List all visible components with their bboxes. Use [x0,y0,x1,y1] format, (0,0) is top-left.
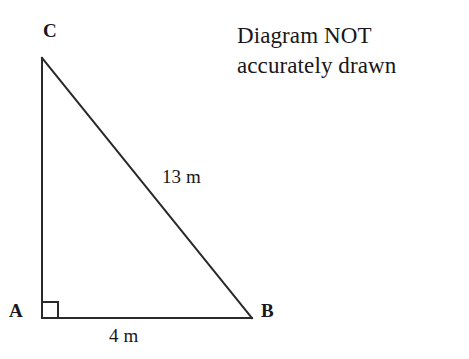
right-angle-marker-icon [42,302,58,318]
note-line-2: accurately drawn [237,51,396,81]
vertex-label-c: C [43,21,57,40]
diagram-canvas: C A B 13 m 4 m Diagram NOT accurately dr… [0,0,469,359]
side-cb-hypotenuse-line [42,58,252,318]
base-length-label: 4 m [109,326,138,345]
triangle-figure [0,0,469,359]
note-line-1: Diagram NOT [237,21,396,51]
vertex-label-a: A [9,301,23,320]
diagram-not-accurate-note: Diagram NOT accurately drawn [237,21,396,82]
vertex-label-b: B [261,301,274,320]
hypotenuse-length-label: 13 m [162,167,201,186]
